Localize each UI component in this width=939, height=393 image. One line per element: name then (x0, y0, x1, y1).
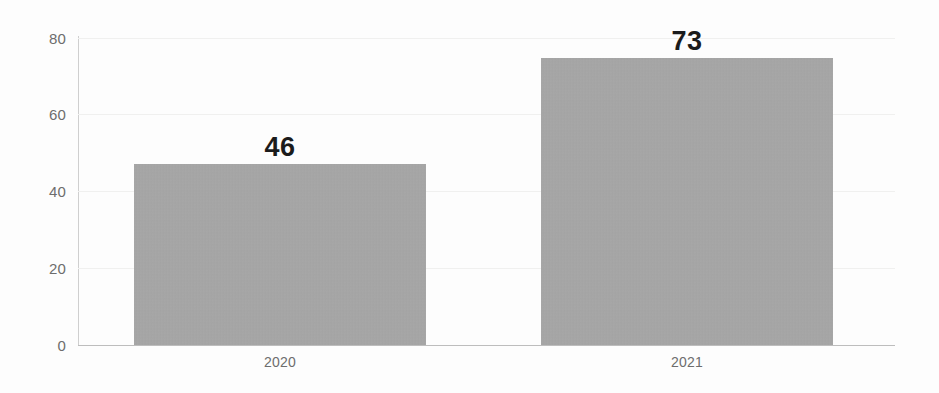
bar-2020[interactable] (134, 164, 426, 345)
y-tick-label-20: 20 (8, 261, 66, 276)
bar-chart: 80 60 40 20 0 46 73 2020 2021 (0, 0, 939, 393)
bar-2021[interactable] (541, 58, 833, 345)
y-axis-tick-labels: 80 60 40 20 0 (0, 0, 66, 393)
y-tick-label-80: 80 (8, 31, 66, 46)
x-tick-label-2021: 2021 (541, 355, 833, 369)
x-tick-label-2020: 2020 (134, 355, 426, 369)
value-label-2021: 73 (541, 28, 833, 55)
x-axis-baseline (78, 345, 895, 346)
plot-area (78, 38, 895, 345)
y-tick-label-0: 0 (8, 338, 66, 353)
value-label-2020: 46 (134, 134, 426, 161)
y-tick-label-60: 60 (8, 107, 66, 122)
y-tick-label-40: 40 (8, 184, 66, 199)
